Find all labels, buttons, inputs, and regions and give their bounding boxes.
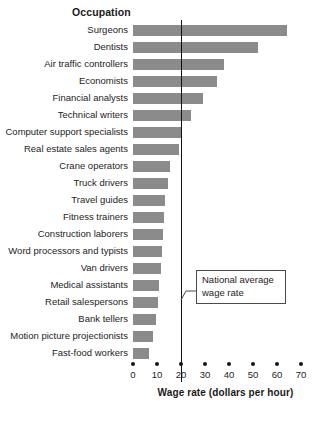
bar bbox=[133, 178, 168, 189]
category-label: Financial analysts bbox=[52, 91, 128, 105]
bar-row: Word processors and typists bbox=[133, 243, 318, 261]
bar bbox=[133, 297, 158, 308]
category-label: Surgeons bbox=[87, 23, 128, 37]
bar bbox=[133, 246, 162, 257]
x-tick-label: 20 bbox=[176, 369, 187, 380]
x-tick-label: 60 bbox=[272, 369, 283, 380]
bar bbox=[133, 314, 156, 325]
x-tick-mark bbox=[275, 362, 279, 366]
bar bbox=[133, 93, 203, 104]
x-tick-label: 50 bbox=[248, 369, 259, 380]
x-tick-label: 10 bbox=[152, 369, 163, 380]
bar bbox=[133, 331, 153, 342]
wage-rate-bar-chart: Occupation SurgeonsDentistsAir traffic c… bbox=[0, 0, 318, 426]
bar-row: Fast-food workers bbox=[133, 345, 318, 363]
x-tick-label: 30 bbox=[200, 369, 211, 380]
x-tick-mark bbox=[179, 362, 183, 366]
x-tick-label: 70 bbox=[296, 369, 307, 380]
bar-row: Technical writers bbox=[133, 107, 318, 125]
callout-line-1: National average bbox=[202, 274, 280, 287]
x-tick-mark bbox=[131, 362, 135, 366]
bar bbox=[133, 195, 165, 206]
bar-row: Real estate sales agents bbox=[133, 141, 318, 159]
bar-row: Truck drivers bbox=[133, 175, 318, 193]
category-label: Fast-food workers bbox=[52, 346, 128, 360]
x-tick-mark bbox=[203, 362, 207, 366]
bar bbox=[133, 229, 163, 240]
x-tick-mark bbox=[155, 362, 159, 366]
bar-row: Computer support specialists bbox=[133, 124, 318, 142]
bar-row: Crane operators bbox=[133, 158, 318, 176]
bar bbox=[133, 161, 170, 172]
bar bbox=[133, 348, 149, 359]
bar bbox=[133, 25, 287, 36]
bar-row: Fitness trainers bbox=[133, 209, 318, 227]
x-tick-mark bbox=[251, 362, 255, 366]
bar bbox=[133, 76, 217, 87]
category-label: Air traffic controllers bbox=[44, 57, 128, 71]
bar-row: Economists bbox=[133, 73, 318, 91]
plot-area: SurgeonsDentistsAir traffic controllersE… bbox=[133, 22, 318, 360]
category-label: Motion picture projectionists bbox=[10, 329, 128, 343]
category-label: Bank tellers bbox=[78, 312, 128, 326]
category-label: Medical assistants bbox=[50, 278, 128, 292]
bar bbox=[133, 263, 161, 274]
bar bbox=[133, 280, 159, 291]
category-label: Economists bbox=[79, 74, 128, 88]
bar bbox=[133, 144, 179, 155]
category-label: Retail salespersons bbox=[45, 295, 128, 309]
callout-line-2: wage rate bbox=[202, 287, 280, 300]
x-tick-label: 40 bbox=[224, 369, 235, 380]
national-average-reference-line bbox=[181, 20, 182, 382]
category-label: Dentists bbox=[94, 40, 128, 54]
bar-row: Motion picture projectionists bbox=[133, 328, 318, 346]
bar-row: Bank tellers bbox=[133, 311, 318, 329]
category-label: Travel guides bbox=[71, 193, 128, 207]
bar bbox=[133, 42, 258, 53]
category-label: Crane operators bbox=[59, 159, 128, 173]
category-label: Fitness trainers bbox=[63, 210, 128, 224]
category-label: Real estate sales agents bbox=[24, 142, 128, 156]
category-label: Truck drivers bbox=[73, 176, 128, 190]
bar bbox=[133, 212, 164, 223]
x-tick-mark bbox=[299, 362, 303, 366]
category-label: Van drivers bbox=[81, 261, 128, 275]
bar-row: Financial analysts bbox=[133, 90, 318, 108]
category-label: Computer support specialists bbox=[6, 125, 129, 139]
category-label: Word processors and typists bbox=[8, 244, 128, 258]
bar-row: Dentists bbox=[133, 39, 318, 57]
x-tick-label: 0 bbox=[130, 369, 135, 380]
bar bbox=[133, 59, 224, 70]
bar-row: Travel guides bbox=[133, 192, 318, 210]
bar-row: Surgeons bbox=[133, 22, 318, 40]
y-axis-title: Occupation bbox=[72, 6, 131, 18]
x-axis-title: Wage rate (dollars per hour) bbox=[133, 387, 318, 398]
x-axis: 010203040506070 bbox=[0, 362, 318, 384]
x-tick-mark bbox=[227, 362, 231, 366]
bar-row: Air traffic controllers bbox=[133, 56, 318, 74]
category-label: Construction laborers bbox=[38, 227, 128, 241]
bar bbox=[133, 127, 182, 138]
national-average-callout: National average wage rate bbox=[196, 270, 286, 304]
category-label: Technical writers bbox=[58, 108, 128, 122]
bar-row: Construction laborers bbox=[133, 226, 318, 244]
